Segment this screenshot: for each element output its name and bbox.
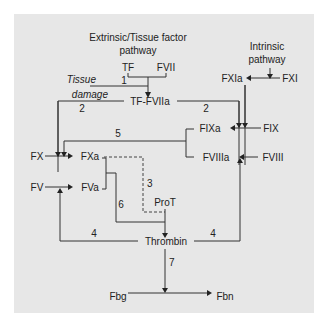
arrowhead-icon — [57, 188, 63, 193]
arrowhead-icon — [162, 288, 168, 293]
intrinsic-title-line2: pathway — [248, 54, 285, 65]
extrinsic-title-line2: pathway — [119, 45, 156, 56]
intrinsic-title-line1: Intrinsic — [250, 41, 284, 52]
fixa-fviiia-bracket — [186, 129, 194, 157]
coagulation-cascade-diagram: Extrinsic/Tissue factor pathway Intrinsi… — [0, 0, 327, 327]
edge-label-6: 6 — [118, 199, 124, 210]
node-tissue-damage-line2: damage — [72, 89, 109, 100]
edge-label-3: 3 — [147, 178, 153, 189]
edge-label-2-left: 2 — [79, 103, 85, 114]
node-fixa: FIXa — [199, 123, 221, 134]
arrowhead-icon — [246, 75, 251, 81]
node-fv: FV — [31, 182, 44, 193]
node-fix: FIX — [263, 123, 279, 134]
edge-4-right-line — [194, 160, 240, 241]
node-thrombin: Thrombin — [145, 236, 187, 247]
edge-label-5: 5 — [115, 128, 121, 139]
edge-label-4-left: 4 — [91, 228, 97, 239]
node-fvii: FVII — [157, 62, 175, 73]
extrinsic-title-line1: Extrinsic/Tissue factor — [89, 32, 187, 43]
arrowhead-icon — [242, 123, 248, 128]
node-fxia: FXIa — [221, 73, 243, 84]
edge-label-2-right: 2 — [203, 103, 209, 114]
activators-to-fix — [239, 85, 245, 127]
edge-label-7: 7 — [169, 257, 175, 268]
edge-4-left-line — [60, 191, 138, 241]
node-fbn: Fbn — [216, 291, 233, 302]
node-fbg: Fbg — [109, 291, 126, 302]
node-fva: FVa — [81, 182, 99, 193]
node-tf-fviia: TF-FVIIa — [130, 96, 170, 107]
arrowhead-icon — [236, 123, 242, 128]
edge-label-1: 1 — [121, 75, 127, 86]
fxa-fva-bracket — [102, 158, 106, 189]
node-fxi: FXI — [282, 73, 298, 84]
arrowhead-icon — [68, 184, 73, 190]
node-tissue-damage-line1: Tissue — [67, 74, 97, 85]
node-fviiia: FVIIIa — [203, 152, 230, 163]
arrowhead-icon — [230, 125, 235, 131]
arrowhead-icon — [68, 153, 73, 159]
node-fviii: FVIII — [262, 152, 283, 163]
node-fx: FX — [31, 151, 44, 162]
node-tf: TF — [122, 62, 134, 73]
node-fxa: FXa — [81, 151, 100, 162]
arrowhead-icon — [207, 290, 212, 296]
tf-fvii-bracket — [128, 73, 166, 77]
node-prot: ProT — [154, 197, 176, 208]
edge-label-4-right: 4 — [210, 228, 216, 239]
